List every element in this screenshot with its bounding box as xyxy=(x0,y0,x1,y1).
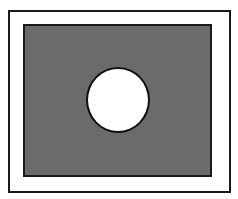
circular-hole xyxy=(86,67,150,133)
